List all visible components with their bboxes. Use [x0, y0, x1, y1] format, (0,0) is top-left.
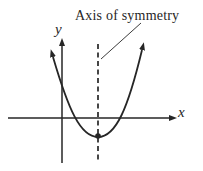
- y-axis-label: y: [53, 21, 62, 37]
- axis-of-symmetry-label: Axis of symmetry: [75, 8, 179, 23]
- parabola-axis-of-symmetry-figure: Axis of symmetry y x: [0, 0, 203, 171]
- parabola-diagram-canvas: Axis of symmetry y x: [0, 0, 203, 171]
- annotation-leader-line: [101, 23, 141, 59]
- vertex-point: [95, 133, 101, 139]
- x-axis-label: x: [177, 104, 185, 120]
